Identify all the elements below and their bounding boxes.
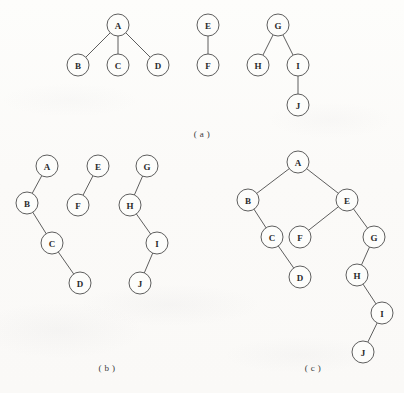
- node-label-J: J: [361, 348, 366, 358]
- node-label-A: A: [115, 21, 122, 31]
- node-label-B: B: [75, 61, 81, 71]
- node-label-H: H: [353, 271, 360, 281]
- tree-node-I[interactable]: I: [287, 54, 309, 76]
- tree-node-A[interactable]: A: [36, 155, 58, 177]
- node-label-G: G: [370, 233, 377, 243]
- panel-b: ABCDEFGHIJ( b ): [16, 155, 168, 373]
- tree-edge-H-I: [136, 214, 150, 234]
- node-label-A: A: [44, 162, 51, 172]
- tree-node-J[interactable]: J: [129, 272, 151, 294]
- tree-node-C[interactable]: C: [107, 54, 129, 76]
- tree-node-C[interactable]: C: [41, 232, 63, 254]
- tree-node-F[interactable]: F: [197, 54, 219, 76]
- tree-node-F[interactable]: F: [67, 194, 89, 216]
- tree-node-D[interactable]: D: [289, 266, 311, 288]
- tree-node-B[interactable]: B: [237, 189, 259, 211]
- panel-a-caption: ( a ): [194, 129, 211, 139]
- node-label-I: I: [296, 61, 300, 71]
- tree-edge-A-B: [257, 169, 289, 194]
- node-label-I: I: [155, 239, 159, 249]
- tree-node-B[interactable]: B: [16, 192, 38, 214]
- tree-edge-I-J: [144, 253, 152, 273]
- node-label-F: F: [297, 233, 303, 243]
- panel-c-caption: ( c ): [305, 363, 322, 373]
- tree-forest-diagram: ABCDEFGHIJ( a )ABCDEFGHIJ( b )ABECFGDHIJ…: [0, 0, 404, 393]
- tree-node-E[interactable]: E: [87, 155, 109, 177]
- panel-b-caption: ( b ): [99, 363, 116, 373]
- tree-node-D[interactable]: D: [147, 54, 169, 76]
- node-label-G: G: [143, 162, 150, 172]
- panel-b-nodes: ABCDEFGHIJ: [16, 155, 168, 294]
- tree-edge-E-F: [309, 207, 339, 230]
- tree-edge-E-G: [353, 209, 367, 228]
- panel-a-nodes: ABCDEFGHIJ: [67, 14, 309, 116]
- tree-node-E[interactable]: E: [336, 189, 358, 211]
- tree-edge-G-H: [361, 247, 369, 265]
- tree-node-G[interactable]: G: [136, 155, 158, 177]
- tree-node-I[interactable]: I: [371, 302, 393, 324]
- node-label-F: F: [205, 61, 211, 71]
- tree-edge-G-I: [283, 35, 293, 55]
- tree-edge-G-H: [263, 35, 273, 55]
- tree-edge-A-D: [126, 33, 150, 57]
- tree-edge-B-C: [33, 212, 46, 233]
- node-label-I: I: [380, 309, 384, 319]
- node-label-G: G: [274, 21, 281, 31]
- node-label-B: B: [24, 199, 30, 209]
- node-label-F: F: [75, 201, 81, 211]
- tree-edge-G-H: [134, 176, 142, 195]
- tree-node-H[interactable]: H: [247, 54, 269, 76]
- node-label-J: J: [296, 101, 301, 111]
- tree-node-D[interactable]: D: [69, 272, 91, 294]
- node-label-H: H: [254, 61, 261, 71]
- node-label-H: H: [126, 201, 133, 211]
- tree-node-J[interactable]: J: [352, 341, 374, 363]
- node-label-J: J: [138, 279, 143, 289]
- node-label-E: E: [344, 196, 350, 206]
- tree-node-H[interactable]: H: [119, 194, 141, 216]
- tree-node-A[interactable]: A: [287, 151, 309, 173]
- tree-node-H[interactable]: H: [346, 264, 368, 286]
- panel-c: ABECFGDHIJ( c ): [237, 151, 393, 373]
- panel-c-edges: [254, 169, 377, 342]
- node-label-E: E: [205, 21, 211, 31]
- tree-node-A[interactable]: A: [107, 14, 129, 36]
- node-label-C: C: [269, 233, 276, 243]
- tree-node-B[interactable]: B: [67, 54, 89, 76]
- panel-c-nodes: ABECFGDHIJ: [237, 151, 393, 363]
- tree-edge-I-J: [368, 323, 377, 342]
- node-label-D: D: [155, 61, 162, 71]
- node-label-E: E: [95, 162, 101, 172]
- tree-edge-A-E: [307, 169, 339, 194]
- node-label-C: C: [49, 239, 56, 249]
- tree-node-E[interactable]: E: [197, 14, 219, 36]
- node-label-D: D: [77, 279, 84, 289]
- tree-edge-C-D: [278, 246, 293, 268]
- tree-node-I[interactable]: I: [146, 232, 168, 254]
- tree-node-G[interactable]: G: [363, 226, 385, 248]
- tree-node-J[interactable]: J: [287, 94, 309, 116]
- node-label-C: C: [115, 61, 122, 71]
- tree-edge-A-B: [86, 33, 110, 57]
- panel-a: ABCDEFGHIJ( a ): [67, 14, 309, 139]
- panel-b-edges: [32, 176, 152, 274]
- tree-node-F[interactable]: F: [289, 226, 311, 248]
- tree-node-G[interactable]: G: [267, 14, 289, 36]
- tree-edge-B-C: [254, 209, 266, 228]
- tree-node-C[interactable]: C: [261, 226, 283, 248]
- figure-root: ABCDEFGHIJ( a )ABCDEFGHIJ( b )ABECFGDHIJ…: [0, 0, 404, 393]
- tree-edge-A-B: [32, 176, 42, 194]
- tree-edge-H-I: [363, 284, 376, 304]
- tree-edge-C-D: [58, 252, 73, 274]
- node-label-D: D: [297, 273, 304, 283]
- tree-edge-E-F: [83, 176, 93, 195]
- node-label-B: B: [245, 196, 251, 206]
- node-label-A: A: [295, 158, 302, 168]
